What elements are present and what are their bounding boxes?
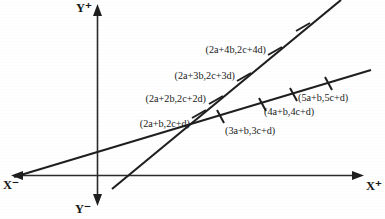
axis-label-y-positive: Y⁺	[76, 1, 92, 15]
point-label-3a-b-3c-d: (3a+b,3c+d)	[225, 125, 275, 137]
y-negative-arrowhead	[93, 194, 102, 206]
coordinate-plane-figure: X⁻ X⁺ Y⁺ Y⁻ (2a+b,2c+d) (2a+2b,2c+2d) (2…	[0, 0, 385, 219]
axis-label-y-negative: Y⁻	[75, 202, 91, 216]
axis-label-x-positive: X⁺	[366, 179, 382, 193]
point-label-2a-3b-2c-3d: (2a+3b,2c+3d)	[175, 70, 235, 82]
axes-group: X⁻ X⁺ Y⁺ Y⁻	[3, 1, 382, 216]
shallow-line-group: (3a+b,3c+d) (4a+b,4c+d) (5a+b,5c+d)	[14, 70, 371, 177]
point-label-4a-b-4c-d: (4a+b,4c+d)	[264, 106, 314, 118]
x-positive-arrowhead	[352, 171, 364, 180]
point-label-5a-b-5c-d: (5a+b,5c+d)	[298, 92, 348, 104]
axis-label-x-negative: X⁻	[3, 178, 19, 192]
y-positive-arrowhead	[93, 4, 102, 16]
point-label-2a-2b-2c-2d: (2a+2b,2c+2d)	[146, 93, 206, 105]
point-label-2a-b-2c-d: (2a+b,2c+d)	[140, 118, 190, 130]
point-label-2a-4b-2c-4d: (2a+4b,2c+4d)	[206, 44, 266, 56]
shallow-line	[14, 70, 371, 177]
